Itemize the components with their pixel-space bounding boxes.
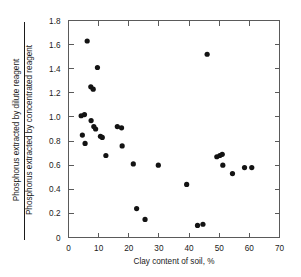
- y-tick-label: 1.2: [49, 89, 61, 98]
- y-axis-title-denominator: Phosphorus extracted by concentrated rea…: [25, 44, 34, 215]
- data-point: [205, 52, 210, 57]
- y-tick-label: 1.8: [49, 17, 61, 26]
- x-tick-label: 40: [185, 244, 195, 253]
- y-tick-label: 1.4: [49, 65, 61, 74]
- data-point: [95, 65, 100, 70]
- data-point: [142, 217, 147, 222]
- x-tick-label: 30: [154, 244, 164, 253]
- data-point: [120, 143, 125, 148]
- data-point: [156, 163, 161, 168]
- data-point: [200, 222, 205, 227]
- data-point: [249, 165, 254, 170]
- y-tick-label: 0.6: [49, 161, 61, 170]
- y-tick-label: 0.2: [49, 209, 61, 218]
- y-tick-label: 0: [56, 234, 61, 243]
- y-tick-label: 0.8: [49, 137, 61, 146]
- data-point: [100, 135, 105, 140]
- x-tick-label: 10: [94, 244, 104, 253]
- data-point: [230, 171, 235, 176]
- data-point: [220, 163, 225, 168]
- data-point: [103, 153, 108, 158]
- y-tick-label: 1.6: [49, 41, 61, 50]
- x-tick-label: 60: [245, 244, 255, 253]
- y-tick-label: 1.0: [49, 113, 61, 122]
- data-point: [131, 161, 136, 166]
- x-tick-label: 0: [66, 244, 71, 253]
- data-point: [80, 132, 85, 137]
- x-tick-label: 50: [215, 244, 225, 253]
- data-point: [82, 112, 87, 117]
- data-point: [82, 141, 87, 146]
- data-point: [119, 125, 124, 130]
- data-point: [89, 118, 94, 123]
- data-point: [220, 152, 225, 157]
- data-point: [184, 182, 189, 187]
- data-point: [242, 165, 247, 170]
- chart-canvas: 00.20.40.60.81.01.21.41.61.8 01020304050…: [0, 0, 301, 277]
- data-point: [195, 223, 200, 228]
- scatter-plot-figure: 00.20.40.60.81.01.21.41.61.8 01020304050…: [0, 0, 301, 277]
- data-point: [85, 38, 90, 43]
- y-tick-label: 0.4: [49, 185, 61, 194]
- x-tick-label: 70: [275, 244, 285, 253]
- x-axis-title: Clay content of soil, %: [133, 257, 214, 266]
- data-point: [93, 126, 98, 131]
- x-tick-label: 20: [124, 244, 134, 253]
- data-point: [91, 87, 96, 92]
- y-axis-title-numerator: Phosphorus extracted by dilute reagent: [12, 58, 21, 201]
- chart-background: [0, 0, 301, 277]
- data-point: [134, 206, 139, 211]
